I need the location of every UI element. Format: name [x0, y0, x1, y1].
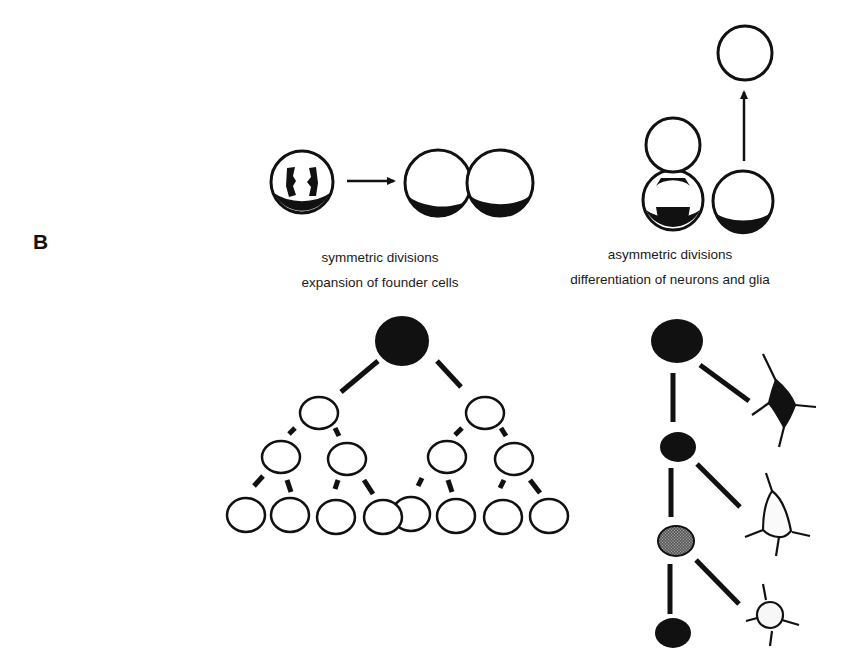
tree-cell: [437, 499, 475, 533]
neurogenesis-diagram: B symmetric divisions expansion of found…: [0, 0, 864, 667]
panel-label: B: [33, 230, 48, 253]
symmetric-subtitle: expansion of founder cells: [302, 275, 459, 290]
tree-cell: [328, 443, 366, 475]
mitotic-cell-icon: [271, 151, 333, 213]
progenitor-cell: [651, 319, 703, 363]
founder-cell: [376, 317, 428, 365]
asymmetric-mitotic-cell-icon: [643, 118, 703, 230]
symmetric-title: symmetric divisions: [321, 250, 438, 265]
daughter-cells-icon: [405, 150, 533, 217]
lineage-connectors: [670, 365, 749, 614]
asymmetric-title: asymmetric divisions: [608, 247, 733, 262]
tree-cell: [317, 500, 355, 534]
symmetric-lineage-tree: [227, 317, 568, 534]
tree-cell: [530, 499, 568, 533]
apical-cell-icon: [713, 171, 773, 234]
tree-cell: [262, 441, 300, 473]
tree-cell: [271, 498, 309, 532]
asymmetric-division-illustration: [643, 26, 773, 234]
asymmetric-subtitle: differentiation of neurons and glia: [570, 272, 770, 287]
tree-connectors: [254, 361, 540, 494]
dark-neuron-icon: [752, 354, 816, 447]
tree-cell: [428, 441, 466, 473]
open-neuron-icon: [745, 473, 810, 556]
stippled-progenitor-cell: [658, 526, 694, 556]
tree-cell: [300, 397, 338, 429]
tree-cell: [484, 500, 522, 534]
released-daughter-cell-icon: [718, 26, 772, 80]
progenitor-cell: [655, 618, 691, 648]
tree-cell: [227, 498, 265, 532]
tree-cell: [466, 397, 504, 429]
symmetric-division-illustration: [271, 150, 533, 217]
tree-cell: [364, 500, 402, 534]
tree-cell: [495, 443, 533, 475]
progenitor-cell: [660, 432, 696, 462]
asymmetric-lineage: [651, 319, 816, 648]
glial-cell-icon: [746, 584, 799, 646]
